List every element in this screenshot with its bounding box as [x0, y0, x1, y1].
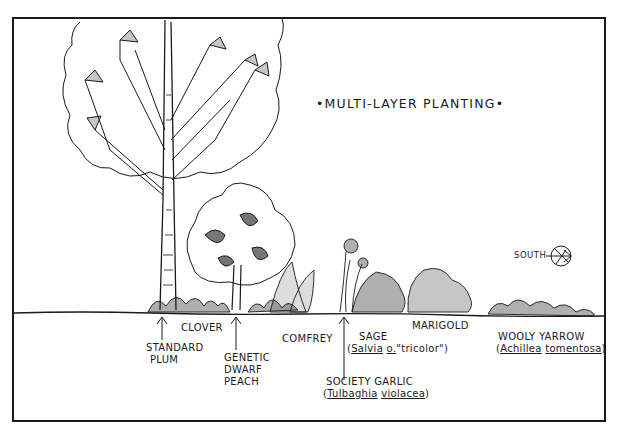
label-line: STANDARD [146, 342, 203, 354]
label-scientific-name: (Salvia o."tricolor") [347, 343, 448, 355]
label-line: PLUM [146, 354, 203, 366]
label-genetic-dwarf-peach: GENETIC DWARF PEACH [224, 352, 270, 388]
label-standard-plum: STANDARD PLUM [146, 342, 203, 366]
label-clover: CLOVER [181, 322, 223, 334]
label-line: GENETIC [224, 352, 270, 364]
planting-illustration [0, 0, 617, 434]
label-sage: SAGE (Salvia o."tricolor") [347, 331, 448, 355]
compass-label: SOUTH [514, 250, 546, 260]
label-scientific-name: (Tulbaghia violacea) [323, 388, 429, 400]
label-common-name: SOCIETY GARLIC [323, 376, 429, 388]
label-comfrey: COMFREY [282, 333, 333, 345]
label-wooly-yarrow: WOOLY YARROW (Achillea tomentosa) [496, 331, 606, 355]
label-line: PEACH [224, 376, 270, 388]
label-marigold: MARIGOLD [412, 320, 469, 332]
diagram-title: •MULTI-LAYER PLANTING• [316, 96, 504, 111]
label-society-garlic: SOCIETY GARLIC (Tulbaghia violacea) [323, 376, 429, 400]
standard-plum-tree-icon [63, 18, 284, 310]
compass-arrow-icon [546, 246, 571, 266]
label-line: DWARF [224, 364, 270, 376]
label-common-name: SAGE [347, 331, 448, 343]
label-common-name: WOOLY YARROW [496, 331, 606, 343]
label-scientific-name: (Achillea tomentosa) [496, 343, 606, 355]
